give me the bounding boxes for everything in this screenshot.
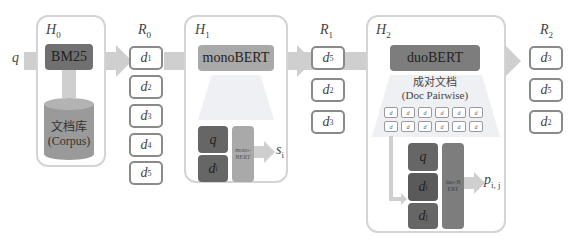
ranking-r0-doc: d2 (129, 75, 163, 99)
ranking-r2-label: R2 (540, 22, 553, 40)
pair-to-input-connector (389, 136, 393, 200)
duobert-model-box: duoBERT (390, 45, 480, 71)
corpus-label: 文档库 (Corpus) (44, 120, 94, 148)
pair-cell: d (384, 121, 398, 132)
input-di-box: di (198, 155, 228, 182)
input-dj-box: dj (408, 203, 438, 229)
input-q-box: q (198, 126, 228, 153)
stage-h0-label: H0 (46, 22, 61, 40)
pair-cell: d (418, 121, 432, 132)
arrow-head-icon (505, 45, 521, 77)
pair-cell: d (469, 121, 483, 132)
pair-cell: d (401, 121, 415, 132)
doc-pairwise-label: 成对文档 (Doc Pairwise) (400, 76, 470, 102)
query-label: q (12, 50, 19, 66)
ranking-r0-label: R0 (138, 22, 151, 40)
ranking-r2-doc: d2 (529, 110, 563, 134)
pair-cell: d (435, 107, 449, 118)
pair-cell: d (469, 107, 483, 118)
pair-cell: d (452, 121, 466, 132)
duo-bert-inner-box: duo-BERT (442, 143, 464, 229)
pair-cell: d (418, 107, 432, 118)
pair-cell: d (384, 107, 398, 118)
ranking-r0-doc: d4 (129, 133, 163, 157)
doc-pair-grid: dddddd dddddd (384, 107, 483, 132)
stage-h1-label: H1 (195, 22, 210, 40)
arrow-head-icon (264, 141, 275, 163)
ranking-r2-doc: d5 (529, 78, 563, 102)
output-probability-pij: pi, j (484, 172, 501, 190)
ranking-r0-doc: d3 (129, 104, 163, 128)
monobert-model-box: monoBERT (198, 45, 274, 71)
bm25-to-corpus-connector (62, 70, 76, 98)
mono-bert-inner-box: mono-BERT (232, 126, 254, 182)
pair-cell: d (401, 107, 415, 118)
bm25-model-box: BM25 (45, 44, 93, 70)
stage-h2-label: H2 (376, 22, 391, 40)
ranking-r0-doc: d5 (129, 161, 163, 185)
pair-cell: d (435, 121, 449, 132)
pair-cell: d (452, 107, 466, 118)
input-di-box: di (408, 173, 438, 201)
ranking-r1-doc: d3 (311, 110, 345, 134)
ranking-r1-doc: d2 (311, 78, 345, 102)
input-q-box: q (408, 143, 438, 171)
ranking-r0-doc: d1 (129, 46, 163, 70)
ranking-r1-label: R1 (320, 22, 333, 40)
ranking-r1-doc: d5 (311, 46, 345, 70)
arrow-head-icon (401, 193, 407, 205)
output-score-si: si (276, 142, 284, 160)
ranking-r2-doc: d3 (529, 46, 563, 70)
